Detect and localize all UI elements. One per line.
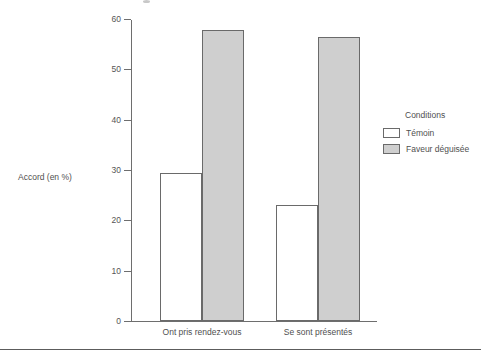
legend-label-faveur-deguisee: Faveur déguisée: [406, 144, 469, 154]
legend-swatch-icon-faveur-deguisee: [383, 144, 400, 154]
bar-chart-figure: Accord (en %) 60 50 40 30 20 10: [0, 0, 481, 360]
legend-item-faveur-deguisee[interactable]: Faveur déguisée: [383, 144, 478, 154]
legend: Conditions Témoin Faveur déguisée: [383, 110, 478, 160]
y-tick-label-10: 10: [112, 266, 121, 275]
x-axis-line: [131, 321, 377, 322]
x-category-label-1: Ont pris rendez-vous: [163, 327, 242, 337]
legend-label-temoin: Témoin: [406, 128, 434, 138]
legend-swatch-icon-temoin: [383, 128, 400, 138]
y-tick-label-30: 30: [112, 166, 121, 175]
y-tick-label-0: 0: [116, 317, 121, 326]
x-category-label-2: Se sont présentés: [284, 327, 353, 337]
clipped-glyph-artifact: [143, 0, 150, 3]
legend-title: Conditions: [405, 110, 478, 120]
bar-group1-temoin[interactable]: [160, 173, 202, 321]
bar-group2-temoin[interactable]: [276, 205, 318, 321]
bars-layer: [131, 14, 377, 321]
bar-group2-faveur-deguisee[interactable]: [318, 37, 360, 321]
y-tick-label-50: 50: [112, 65, 121, 74]
bottom-divider: [0, 349, 481, 350]
legend-item-temoin[interactable]: Témoin: [383, 128, 478, 138]
bar-group1-faveur-deguisee[interactable]: [202, 30, 244, 321]
y-tick-label-40: 40: [112, 115, 121, 124]
y-tick-label-20: 20: [112, 216, 121, 225]
y-tick-label-60: 60: [112, 15, 121, 24]
y-axis-title: Accord (en %): [18, 172, 72, 182]
plot-area: 60 50 40 30 20 10 0: [131, 14, 377, 322]
